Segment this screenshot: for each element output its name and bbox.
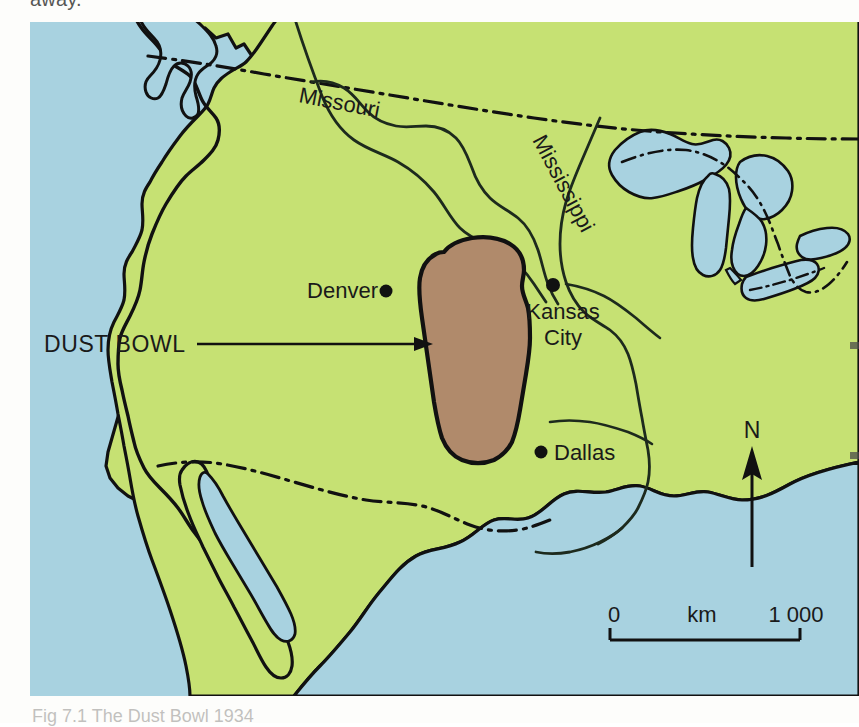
edge-artifact-upper [850, 342, 859, 349]
scale-unit-label: km [687, 602, 716, 627]
kansas-city-label-line1: Kansas [526, 299, 599, 324]
denver-label: Denver [307, 278, 378, 303]
kansas-city-dot [546, 278, 560, 292]
top-caption-fragment: away. [30, 0, 82, 11]
map-figure: DUST BOWL Missouri Mississippi Denver Ka… [30, 22, 859, 696]
kansas-city-label-line2: City [544, 325, 582, 350]
map-svg: DUST BOWL Missouri Mississippi Denver Ka… [30, 22, 859, 696]
denver-dot [380, 285, 393, 298]
edge-artifact-lower [850, 452, 859, 459]
dust-bowl-label: DUST BOWL [44, 331, 186, 357]
scale-start-label: 0 [608, 602, 620, 627]
bottom-caption-fragment: Fig 7.1 The Dust Bowl 1934 [32, 706, 254, 727]
north-arrow-label: N [744, 417, 761, 443]
dallas-label: Dallas [554, 440, 615, 465]
scale-end-label: 1 000 [768, 602, 823, 627]
dallas-dot [535, 446, 548, 459]
